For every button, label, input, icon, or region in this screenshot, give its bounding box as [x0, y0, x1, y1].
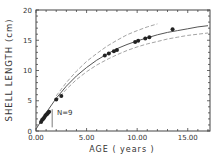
y-axis-label: SHELL LENGTH (cm) [4, 19, 14, 122]
x-axis-label: AGE ( years ) [89, 145, 154, 154]
data-point [47, 110, 51, 114]
data-point [115, 48, 119, 52]
y-tick-label: 15 [23, 37, 32, 45]
data-point [171, 27, 175, 31]
x-tick-label: 10.00 [127, 134, 147, 142]
data-point [136, 39, 140, 43]
growth-chart: 0.005.0010.0015.0005101520 SHELL LENGTH … [0, 0, 219, 156]
x-tick-label: 15.00 [178, 134, 198, 142]
data-point [54, 98, 58, 102]
data-point [59, 94, 63, 98]
y-tick-label: 10 [23, 67, 32, 75]
y-tick-label: 20 [23, 7, 32, 15]
y-tick-label: 0 [28, 128, 32, 136]
y-tick-label: 5 [28, 97, 32, 105]
data-point [107, 52, 111, 56]
axis-labels: 0.005.0010.0015.0005101520 [23, 7, 198, 143]
sample-size-annotation: N=9 [57, 109, 73, 117]
x-tick-label: 5.00 [79, 134, 95, 142]
data-point [147, 35, 151, 39]
confidence-bound [56, 24, 157, 96]
data-point [143, 36, 147, 40]
data-point [103, 53, 107, 57]
